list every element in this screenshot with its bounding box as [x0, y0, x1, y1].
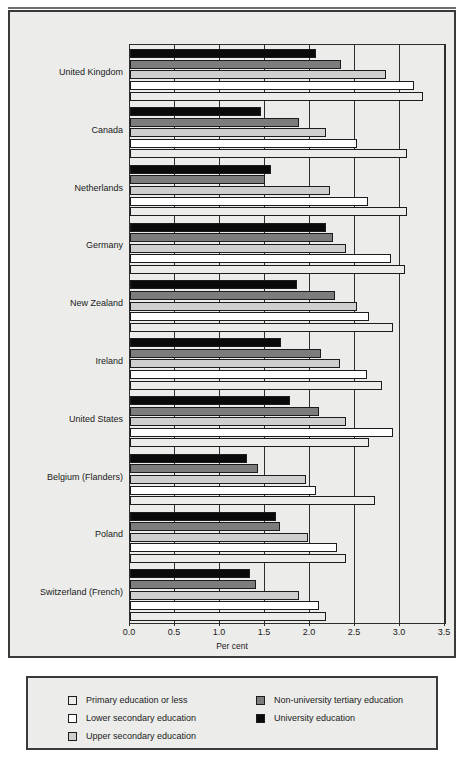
legend-item[interactable]: Lower secondary education [68, 709, 196, 727]
category-label: Germany [11, 240, 123, 250]
legend-item[interactable]: Upper secondary education [68, 727, 196, 745]
bar [130, 486, 316, 495]
bar [130, 612, 326, 621]
x-tick-label: 1.5 [244, 627, 284, 637]
bar [130, 522, 280, 531]
category-label: Ireland [11, 356, 123, 366]
legend-swatch-icon [256, 696, 265, 705]
category-label: Netherlands [11, 183, 123, 193]
x-tick [444, 622, 445, 626]
bar [130, 359, 340, 368]
bar [130, 291, 335, 300]
legend-label: Lower secondary education [86, 713, 196, 723]
bar [130, 512, 276, 521]
bar [130, 381, 382, 390]
bar [130, 396, 290, 405]
bar-group [130, 161, 445, 219]
category-label: Poland [11, 529, 123, 539]
bar [130, 302, 357, 311]
bar-group [130, 276, 445, 334]
x-tick-label: 3.0 [379, 627, 419, 637]
legend-item[interactable]: University education [256, 709, 403, 727]
bar [130, 533, 308, 542]
bar [130, 280, 297, 289]
legend-label: University education [274, 713, 355, 723]
chart-legend: Primary education or lessLower secondary… [26, 676, 438, 750]
bar [130, 454, 247, 463]
legend-item[interactable]: Non-university tertiary education [256, 691, 403, 709]
bar-group [130, 450, 445, 508]
bar [130, 139, 357, 148]
bar-group [130, 45, 445, 103]
bar [130, 569, 250, 578]
category-label: Canada [11, 125, 123, 135]
category-axis: United KingdomCanadaNetherlandsGermanyNe… [10, 44, 123, 622]
top-rule [8, 7, 456, 9]
x-tick [399, 622, 400, 626]
category-label: New Zealand [11, 298, 123, 308]
bar [130, 118, 299, 127]
legend-swatch-icon [68, 714, 77, 723]
x-tick-label: 0.0 [109, 627, 149, 637]
category-label: Belgium (Flanders) [11, 472, 123, 482]
bar-group [130, 218, 445, 276]
bar [130, 601, 319, 610]
bar [130, 207, 407, 216]
legend-column-right: Non-university tertiary educationUnivers… [256, 691, 403, 727]
x-tick-label: 1.0 [199, 627, 239, 637]
legend-swatch-icon [68, 732, 77, 741]
plot-area [129, 44, 446, 624]
bar [130, 417, 346, 426]
bar [130, 312, 369, 321]
bar [130, 543, 337, 552]
bar [130, 591, 299, 600]
legend-label: Upper secondary education [86, 731, 196, 741]
bar-group [130, 507, 445, 565]
bar [130, 186, 330, 195]
bar [130, 475, 306, 484]
legend-label: Non-university tertiary education [274, 695, 403, 705]
bar [130, 254, 391, 263]
bar [130, 438, 369, 447]
category-label: Switzerland (French) [11, 587, 123, 597]
bar [130, 165, 271, 174]
bar [130, 580, 256, 589]
bar-group [130, 392, 445, 450]
legend-swatch-icon [256, 714, 265, 723]
legend-swatch-icon [68, 696, 77, 705]
bar [130, 149, 407, 158]
bar [130, 92, 423, 101]
x-tick-label: 3.5 [424, 627, 464, 637]
bar [130, 197, 368, 206]
bar [130, 496, 375, 505]
x-axis-title: Per cent [10, 641, 454, 651]
chart-panel: United KingdomCanadaNetherlandsGermanyNe… [8, 10, 456, 658]
x-tick [354, 622, 355, 626]
bar [130, 175, 265, 184]
category-label: United States [11, 414, 123, 424]
x-tick-label: 0.5 [154, 627, 194, 637]
legend-label: Primary education or less [86, 695, 188, 705]
legend-column-left: Primary education or lessLower secondary… [68, 691, 196, 745]
bar-group [130, 334, 445, 392]
bar [130, 265, 405, 274]
bar-group [130, 565, 445, 623]
bar [130, 428, 393, 437]
category-label: United Kingdom [11, 67, 123, 77]
bar [130, 349, 321, 358]
x-tick [219, 622, 220, 626]
bar [130, 60, 341, 69]
bar [130, 128, 326, 137]
bar [130, 49, 316, 58]
x-tick [309, 622, 310, 626]
x-tick-label: 2.0 [289, 627, 329, 637]
bar [130, 107, 261, 116]
bar [130, 554, 346, 563]
chart-page: United KingdomCanadaNetherlandsGermanyNe… [0, 0, 464, 770]
bar [130, 244, 346, 253]
x-tick [129, 622, 130, 626]
bar [130, 70, 386, 79]
bar [130, 223, 326, 232]
bar [130, 81, 414, 90]
legend-item[interactable]: Primary education or less [68, 691, 196, 709]
